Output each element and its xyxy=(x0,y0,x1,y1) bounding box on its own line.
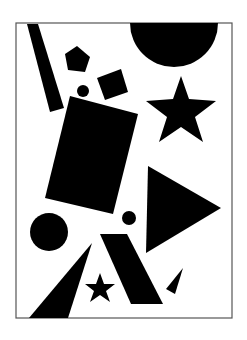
large-circle-shape xyxy=(30,213,68,251)
small-dot-bottom-shape xyxy=(122,211,136,225)
geometric-composition xyxy=(0,0,247,340)
small-dot-top-shape xyxy=(77,85,89,97)
